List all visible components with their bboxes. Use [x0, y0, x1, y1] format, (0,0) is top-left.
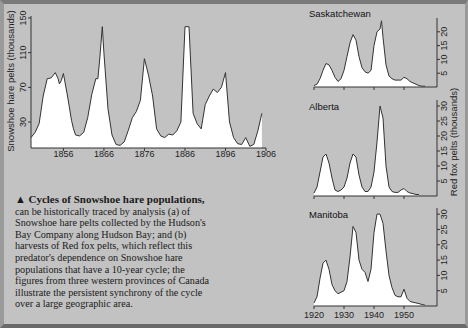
chart-manitoba: 192019301940195051015202530Manitoba	[304, 208, 449, 320]
manitoba-y-tick-label: 10	[439, 270, 449, 280]
chart-alberta: 51015202530Red fox pelts (thousands)Albe…	[309, 88, 459, 199]
hare-x-tick-label: 1876	[134, 149, 154, 159]
saskatchewan-panel-title: Saskatchewan	[309, 8, 371, 19]
caption-marker: ▲	[15, 193, 26, 205]
hare-x-tick-label: 1856	[53, 149, 73, 159]
manitoba-panel-title: Manitoba	[309, 209, 349, 220]
chart-hare: 1856186618761886189619063070110150Snowsh…	[5, 10, 276, 159]
hare-x-tick-label: 1896	[215, 149, 235, 159]
manitoba-y-tick-label: 25	[439, 224, 449, 234]
alberta-y-axis-title: Red fox pelts (thousands)	[448, 88, 459, 196]
saskatchewan-y-tick-label: 20	[439, 27, 449, 37]
hare-y-tick-label: 150	[18, 10, 28, 25]
caption-body: can be historically traced by analysis (…	[15, 206, 209, 310]
saskatchewan-area-fill	[314, 21, 425, 87]
manitoba-y-tick-label: 5	[439, 288, 449, 293]
hare-y-axis-title: Snowshoe hare pelts (thousands)	[5, 10, 16, 152]
alberta-panel-title: Alberta	[309, 101, 340, 112]
saskatchewan-y-tick-label: 5	[439, 71, 449, 76]
hare-x-tick-label: 1866	[94, 149, 114, 159]
alberta-area-fill	[314, 106, 419, 196]
hare-x-tick-label: 1886	[175, 149, 195, 159]
saskatchewan-y-tick-label: 15	[439, 41, 449, 51]
caption-heading: Cycles of Snowshoe hare populations,	[28, 193, 204, 205]
saskatchewan-y-tick-label: 10	[439, 54, 449, 64]
manitoba-area-fill	[314, 214, 425, 306]
manitoba-y-tick-label: 15	[439, 255, 449, 265]
manitoba-y-tick-label: 30	[439, 209, 449, 219]
hare-x-tick-label: 1906	[256, 149, 276, 159]
hare-y-tick-label: 110	[18, 45, 28, 59]
manitoba-y-tick-label: 20	[439, 240, 449, 250]
hare-y-tick-label: 70	[18, 82, 28, 92]
manitoba-x-tick-label: 1930	[334, 310, 354, 320]
hare-y-tick-label: 30	[18, 117, 28, 127]
manitoba-x-tick-label: 1950	[394, 310, 414, 320]
chart-saskatchewan: 5101520Saskatchewan	[309, 8, 449, 90]
manitoba-x-tick-label: 1940	[364, 310, 384, 320]
manitoba-x-tick-label: 1920	[304, 310, 324, 320]
figure-caption: ▲ Cycles of Snowshoe hare populations, c…	[15, 194, 215, 310]
